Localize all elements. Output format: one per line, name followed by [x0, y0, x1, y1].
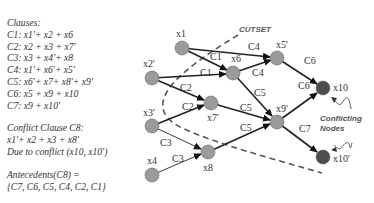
edge-x3-x7 [152, 105, 204, 126]
edge-label-x1-x5: C4 [248, 41, 260, 52]
node-x5p [270, 51, 284, 65]
node-label-x4: x4 [147, 155, 157, 166]
node-x10 [316, 81, 330, 95]
node-label-x5p: x5' [276, 39, 288, 50]
node-x1 [175, 41, 189, 55]
node-label-x10p: x10' [333, 153, 350, 164]
node-label-x6: x6 [231, 53, 241, 64]
edge-label-x2-x6: C1 [200, 67, 212, 78]
edge-x9-x10p [277, 122, 317, 152]
node-label-x10: x10 [333, 82, 348, 93]
node-x3p [145, 119, 159, 133]
node-label-x9p: x9' [276, 103, 288, 114]
edge-x8-x9 [208, 124, 270, 152]
conflicting-label-line1: Conflicting [320, 114, 362, 123]
edge-label-x6-x9: C5 [254, 87, 266, 98]
node-label-x1: x1 [176, 28, 186, 39]
edge-label-x4-x8: C3 [172, 153, 184, 164]
edge-label-x9-x10: C6 [298, 80, 310, 91]
edge-label-x7-x9: C5 [240, 102, 252, 113]
edge-label-x1-x6: C1 [210, 51, 222, 62]
node-x2p [145, 71, 159, 85]
edge-label-x9-x10p: C7 [299, 123, 311, 134]
edge-label-x2-x7: C2 [180, 82, 192, 93]
cutset-label: CUTSET [239, 25, 272, 34]
node-x9p [270, 115, 284, 129]
edge-label-x3-x8: C3 [160, 137, 172, 148]
implication-graph: CUTSET C1 C1 C4 C4 C2 C2 C3 C3 C5 C5 C5 … [0, 0, 374, 203]
edge-label-x5-x10: C6 [304, 55, 316, 66]
edge-x2-x6 [152, 74, 226, 78]
node-label-x8: x8 [203, 162, 213, 173]
node-x6 [226, 66, 240, 80]
squiggle-arrow-x10 [334, 98, 352, 109]
node-label-x3p: x3' [143, 107, 155, 118]
edge-label-x6-x5: C4 [252, 67, 264, 78]
conflicting-label-line2: Nodes [320, 124, 345, 133]
node-x4 [145, 168, 159, 182]
squiggle-arrowhead-x10p [331, 147, 337, 152]
edge-label-x3-x7: C2 [182, 101, 194, 112]
edge-label-x8-x9: C5 [240, 122, 252, 133]
squiggle-arrow-x10p [334, 143, 352, 149]
node-x10p [316, 150, 330, 164]
node-x8 [201, 145, 215, 159]
node-label-x2p: x2' [143, 58, 155, 69]
node-label-x7p: x7' [207, 112, 219, 123]
node-x7p [204, 96, 218, 110]
edge-x2-x7 [152, 78, 204, 100]
edge-x6-x9 [233, 73, 272, 116]
